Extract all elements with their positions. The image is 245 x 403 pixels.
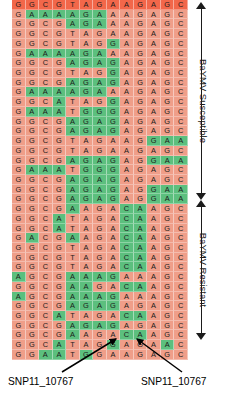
alignment-cell: C — [174, 126, 188, 136]
alignment-cell: C — [174, 78, 188, 88]
alignment-cell: G — [161, 272, 175, 282]
alignment-cell: G — [80, 78, 94, 88]
alignment-matrix: GGCGTAGAAGAGCGAAAAGAAAGAGCGGCGAGAAAGAGCG… — [12, 0, 188, 360]
alignment-cell: G — [26, 78, 40, 88]
alignment-cell: C — [39, 58, 53, 68]
alignment-cell: A — [66, 321, 80, 331]
alignment-cell: G — [134, 0, 148, 10]
alignment-cell: A — [66, 87, 80, 97]
alignment-cell: A — [174, 194, 188, 204]
alignment-cell: A — [26, 10, 40, 20]
alignment-cell: G — [80, 10, 94, 20]
alignment-cell: T — [66, 97, 80, 107]
alignment-cell: G — [53, 68, 67, 78]
alignment-cell: A — [120, 10, 134, 20]
alignment-cell: A — [147, 272, 161, 282]
alignment-cell: G — [12, 29, 26, 39]
snp-arrow-right — [137, 339, 182, 372]
sequence-alignment-figure: GGCGTAGAAGAGCGAAAAGAAAGAGCGGCGAGAAAGAGCG… — [0, 0, 245, 403]
alignment-cell: G — [12, 224, 26, 234]
alignment-cell: G — [12, 49, 26, 59]
alignment-cell: G — [12, 10, 26, 20]
alignment-cell: A — [120, 175, 134, 185]
alignment-cell: A — [66, 292, 80, 302]
alignment-cell: A — [147, 204, 161, 214]
alignment-cell: C — [39, 126, 53, 136]
alignment-cell: T — [66, 165, 80, 175]
alignment-cell: T — [66, 262, 80, 272]
alignment-cell: G — [12, 233, 26, 243]
alignment-row: GGCGAGAGAGAGC — [12, 117, 188, 127]
alignment-cell: G — [12, 311, 26, 321]
alignment-cell: A — [26, 49, 40, 59]
alignment-cell: T — [66, 311, 80, 321]
alignment-cell: A — [120, 58, 134, 68]
alignment-cell: A — [80, 204, 94, 214]
alignment-cell: G — [53, 243, 67, 253]
alignment-cell: A — [80, 146, 94, 156]
alignment-cell: C — [39, 19, 53, 29]
alignment-cell: A — [107, 49, 121, 59]
alignment-row: GGCGTAGGAGAGC — [12, 39, 188, 49]
alignment-cell: G — [161, 311, 175, 321]
alignment-cell: G — [53, 185, 67, 195]
alignment-cell: C — [39, 311, 53, 321]
alignment-cell: C — [39, 301, 53, 311]
alignment-cell: C — [174, 58, 188, 68]
alignment-cell: C — [174, 233, 188, 243]
snp-label-left: SNP11_10767 — [8, 376, 74, 387]
alignment-cell: C — [39, 146, 53, 156]
alignment-cell: A — [147, 301, 161, 311]
alignment-cell: G — [12, 87, 26, 97]
alignment-cell: C — [120, 233, 134, 243]
alignment-cell: A — [39, 165, 53, 175]
alignment-cell: G — [80, 58, 94, 68]
alignment-cell: G — [93, 29, 107, 39]
alignment-cell: G — [134, 78, 148, 88]
alignment-cell: C — [174, 68, 188, 78]
alignment-cell: G — [53, 78, 67, 88]
alignment-cell: G — [161, 87, 175, 97]
alignment-cell: G — [53, 146, 67, 156]
alignment-row: GGCGTAGAAGAGC — [12, 146, 188, 156]
alignment-cell: G — [107, 321, 121, 331]
alignment-row: GGCATAGACAAGC — [12, 311, 188, 321]
alignment-cell: A — [93, 117, 107, 127]
alignment-cell: G — [80, 165, 94, 175]
alignment-cell: A — [120, 156, 134, 166]
alignment-cell: A — [80, 68, 94, 78]
bracket-arrow-down-icon — [196, 193, 206, 200]
alignment-cell: T — [66, 146, 80, 156]
alignment-cell: C — [39, 204, 53, 214]
alignment-cell: C — [39, 224, 53, 234]
alignment-row: GGCGAAGACAAGC — [12, 282, 188, 292]
alignment-cell: C — [39, 39, 53, 49]
alignment-cell: G — [53, 29, 67, 39]
alignment-cell: A — [147, 262, 161, 272]
alignment-cell: A — [80, 262, 94, 272]
alignment-cell: G — [12, 194, 26, 204]
snp-label-right: SNP11_10767 — [141, 376, 207, 387]
alignment-row: AGCGAAAGAAAGC — [12, 272, 188, 282]
alignment-cell: C — [120, 243, 134, 253]
alignment-cell: C — [174, 253, 188, 263]
alignment-cell: A — [107, 243, 121, 253]
alignment-cell: G — [80, 19, 94, 29]
alignment-cell: A — [120, 146, 134, 156]
alignment-cell: G — [161, 253, 175, 263]
alignment-cell: C — [174, 175, 188, 185]
alignment-cell: A — [66, 185, 80, 195]
alignment-cell: C — [39, 136, 53, 146]
group-label-susceptible: BaYMV Susceptible — [198, 59, 209, 143]
alignment-cell: G — [26, 58, 40, 68]
alignment-row: GGCGTAGAAGAGC — [12, 0, 188, 10]
alignment-cell: A — [26, 107, 40, 117]
alignment-cell: G — [134, 146, 148, 156]
alignment-cell: A — [120, 321, 134, 331]
alignment-cell: G — [80, 117, 94, 127]
alignment-cell: G — [161, 68, 175, 78]
alignment-cell: A — [134, 224, 148, 234]
alignment-cell: A — [93, 10, 107, 20]
alignment-cell: G — [12, 107, 26, 117]
alignment-cell: G — [26, 214, 40, 224]
